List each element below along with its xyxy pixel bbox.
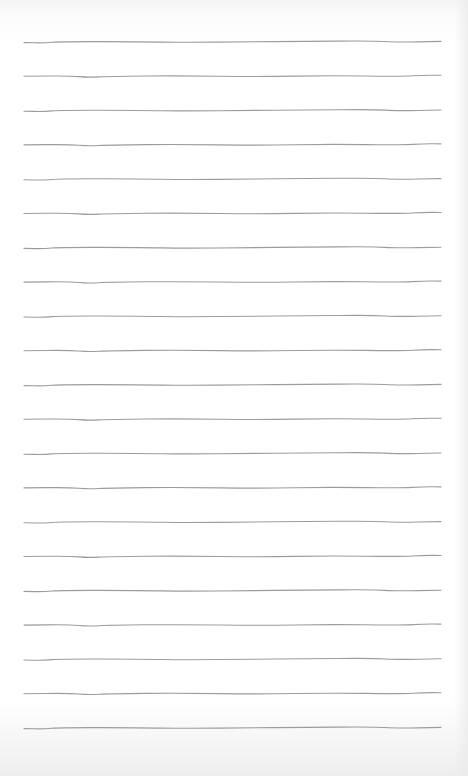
ruled-line bbox=[24, 453, 441, 455]
ruled-line bbox=[24, 521, 441, 523]
ruled-line bbox=[24, 75, 441, 77]
ruled-line bbox=[24, 624, 441, 626]
ruled-line bbox=[24, 418, 441, 420]
ruled-line bbox=[24, 144, 441, 146]
ruled-line bbox=[24, 350, 441, 352]
ruled-line bbox=[24, 110, 441, 112]
ruled-line bbox=[24, 590, 441, 592]
paper-sheet bbox=[0, 0, 468, 776]
ruled-line bbox=[24, 247, 441, 249]
ruled-line bbox=[24, 41, 441, 43]
ruled-line bbox=[24, 315, 441, 317]
ruled-line bbox=[24, 487, 441, 489]
ruled-line bbox=[24, 658, 441, 660]
ruled-line bbox=[24, 178, 441, 180]
ruled-line bbox=[24, 727, 441, 729]
ruled-line bbox=[24, 555, 441, 557]
ruled-line bbox=[24, 212, 441, 214]
ruled-line bbox=[24, 384, 441, 386]
ruled-line bbox=[24, 281, 441, 283]
ruled-line bbox=[24, 693, 441, 695]
ruled-lines bbox=[0, 0, 468, 776]
